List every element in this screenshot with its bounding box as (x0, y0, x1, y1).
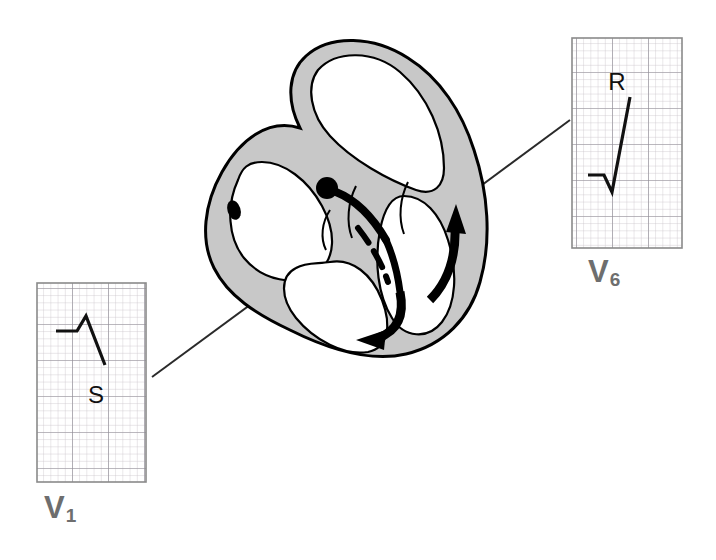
v6-wave-label: R (608, 68, 625, 95)
v6-lead-subscript: 6 (610, 269, 621, 290)
v1-lead-subscript: 1 (66, 505, 77, 526)
v6-lead-letter: V (588, 254, 609, 289)
v6-grid (572, 38, 682, 248)
v1-lead-label: V1 (44, 492, 76, 525)
v1-wave-label: S (88, 381, 104, 408)
v1-lead-letter: V (44, 490, 65, 525)
v1-panel: S (37, 283, 146, 482)
v6-lead-label: V6 (588, 256, 620, 289)
v6-panel: R (572, 38, 682, 248)
